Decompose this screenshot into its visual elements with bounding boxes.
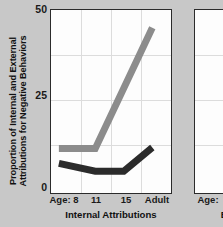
x-axis-title-external: E [221, 209, 223, 220]
x-tick-label-age8: Age: 8 [49, 194, 78, 205]
x-tick-group-internal: Age: 8 11 15 Adult [50, 194, 172, 208]
x-tick-label-age-external: Age: [197, 194, 218, 205]
y-tick-label-25: 25 [19, 89, 47, 101]
y-axis-title-line2: Attributions for Negative Behaviors [18, 35, 28, 186]
gridline-horizontal [195, 100, 223, 101]
plot-panel-external [194, 9, 223, 194]
x-tick-label-11: 11 [91, 194, 101, 205]
y-tick-label-50: 50 [19, 3, 47, 15]
gridline-horizontal [195, 145, 223, 146]
figure-container: Proportion of Internal and External Attr… [0, 0, 223, 227]
series-line-gray [59, 28, 152, 149]
gridline-horizontal [195, 55, 223, 56]
x-tick-label-adult: Adult [145, 194, 169, 205]
x-tick-label-15: 15 [121, 194, 132, 205]
y-axis-title: Proportion of Internal and External Attr… [3, 16, 33, 206]
x-axis-title-internal: Internal Attributions [65, 209, 156, 220]
y-tick-label-0: 0 [19, 181, 47, 193]
y-axis-title-line1: Proportion of Internal and External [8, 37, 18, 185]
series-plot-internal [51, 10, 171, 193]
x-tick-group-external: Age: [194, 194, 223, 208]
plot-panel-internal [50, 9, 172, 194]
